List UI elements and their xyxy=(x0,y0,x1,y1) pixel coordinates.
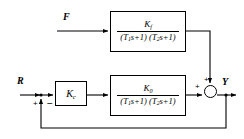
ctrl-gain-subscript: c xyxy=(73,92,76,99)
sign-plus-feedforward-path: + xyxy=(204,76,209,84)
feedforward-denominator: (T1s+1) (T2s+1) xyxy=(118,32,177,43)
process-numerator: K0 xyxy=(137,84,158,95)
controller-gain-label: Kc xyxy=(66,88,76,100)
feedforward-block: Kf (T1s+1) (T2s+1) xyxy=(110,11,186,52)
output-summing-junction xyxy=(204,85,217,98)
process-block: K0 (T1s+1) (T2s+1) xyxy=(110,75,186,116)
feedforward-transfer-function: Kf (T1s+1) (T2s+1) xyxy=(117,20,179,43)
sign-minus-feedback: − xyxy=(47,99,53,109)
block-diagram-canvas: Kf (T1s+1) (T2s+1) K0 (T1s+1) (T2s+1) Kc… xyxy=(0,0,244,139)
ctrl-gain-symbol: K xyxy=(66,88,73,99)
sign-plus-reference: + xyxy=(33,100,38,108)
feedforward-numerator: Kf xyxy=(138,20,158,31)
ff-num-subscript: f xyxy=(150,24,152,30)
proc-den-mid: s+1) ( xyxy=(131,96,152,106)
signal-label-f: F xyxy=(63,11,70,22)
controller-block: Kc xyxy=(55,81,87,106)
ff-den-close: s+1) xyxy=(160,32,176,42)
proc-num-subscript: 0 xyxy=(149,88,152,94)
process-denominator: (T1s+1) (T2s+1) xyxy=(118,96,177,107)
process-transfer-function: K0 (T1s+1) (T2s+1) xyxy=(117,84,179,107)
proc-den-close: s+1) xyxy=(160,96,176,106)
signal-label-r: R xyxy=(17,75,24,86)
ff-den-mid: s+1) ( xyxy=(131,32,152,42)
signal-label-y: Y xyxy=(222,76,228,87)
sign-plus-process-path: + xyxy=(195,83,200,91)
